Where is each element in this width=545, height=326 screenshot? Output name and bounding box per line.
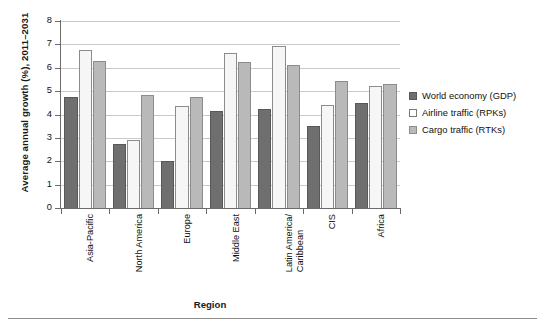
x-tick-mark (158, 209, 159, 214)
y-tick-label: 8 (38, 15, 52, 25)
bar (369, 86, 382, 208)
bar (224, 53, 237, 208)
x-tick-label-line: CIS (327, 214, 337, 229)
legend-label: Airline traffic (RPKs) (422, 107, 506, 118)
x-tick-label: CIS (327, 214, 337, 229)
bar (238, 62, 251, 208)
legend-label: World economy (GDP) (422, 90, 516, 101)
x-axis-title: Region (0, 299, 420, 310)
gridline (61, 44, 400, 45)
legend-swatch-icon (409, 126, 417, 134)
x-tick-label-line: Caribbean (295, 214, 306, 272)
bar (127, 140, 140, 208)
legend-item: Cargo traffic (RTKs) (409, 122, 545, 137)
x-tick-mark (400, 209, 401, 214)
y-tick-label: 2 (38, 155, 52, 165)
x-tick-mark (61, 209, 62, 214)
x-tick-label: North America (134, 214, 144, 272)
bar (161, 161, 174, 208)
chart-legend: World economy (GDP)Airline traffic (RPKs… (409, 88, 545, 139)
legend-label: Cargo traffic (RTKs) (422, 124, 505, 135)
x-tick-label: Latin America/Caribbean (284, 214, 306, 272)
x-tick-mark (255, 209, 256, 214)
bar (113, 144, 126, 208)
bar (175, 106, 188, 208)
bar (383, 84, 396, 208)
bar (190, 97, 203, 208)
legend-item: Airline traffic (RPKs) (409, 105, 545, 120)
x-tick-label-line: Africa (376, 214, 386, 238)
bar (335, 81, 348, 208)
legend-swatch-icon (409, 109, 417, 117)
x-axis-line (61, 208, 401, 209)
bar (258, 109, 271, 208)
bar (355, 103, 368, 208)
bar (64, 97, 77, 208)
x-tick-label-line: Middle East (231, 214, 241, 262)
bar (321, 105, 334, 208)
y-tick-label: 3 (38, 132, 52, 142)
y-tick-label: 5 (38, 85, 52, 95)
x-tick-label: Asia-Pacific (85, 214, 95, 262)
x-tick-label-line: Asia-Pacific (85, 214, 95, 262)
chart-figure: Average annual growth (%), 2011–2031 012… (0, 0, 545, 326)
y-axis-title: Average annual growth (%), 2011–2031 (19, 3, 30, 203)
x-tick-label-line: Latin America/ (284, 214, 294, 272)
legend-swatch-icon (409, 92, 417, 100)
x-tick-label: Middle East (231, 214, 241, 262)
gridline (61, 21, 400, 22)
y-tick-label: 0 (38, 202, 52, 212)
legend-item: World economy (GDP) (409, 88, 545, 103)
x-tick-mark (352, 209, 353, 214)
x-tick-label: Africa (376, 214, 386, 238)
bar (210, 111, 223, 208)
y-tick-label: 4 (38, 109, 52, 119)
x-tick-mark (206, 209, 207, 214)
bar (307, 126, 320, 208)
bar (272, 46, 285, 208)
x-tick-label: Europe (182, 214, 192, 244)
y-tick-label: 7 (38, 38, 52, 48)
x-tick-label-line: North America (134, 214, 144, 272)
bar (79, 50, 92, 208)
bottom-divider (8, 318, 537, 319)
bar (141, 95, 154, 208)
bar (287, 65, 300, 208)
x-tick-mark (109, 209, 110, 214)
bar (93, 61, 106, 208)
y-tick-label: 1 (38, 179, 52, 189)
plot-area (61, 21, 400, 208)
x-tick-label-line: Europe (182, 214, 192, 244)
y-tick-label: 6 (38, 62, 52, 72)
